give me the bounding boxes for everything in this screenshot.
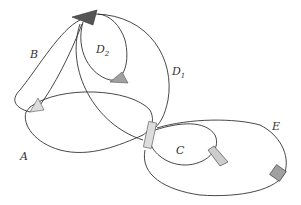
d2-arrow-marker <box>110 72 128 83</box>
label-D2-sub: 2 <box>104 50 110 58</box>
label-D2: D2 <box>95 43 110 58</box>
label-D2-main: D <box>95 43 105 56</box>
label-B: B <box>29 48 38 61</box>
label-C: C <box>176 144 185 157</box>
c-arrow-marker <box>208 146 228 166</box>
curve-A <box>25 92 152 153</box>
center-rect-marker <box>143 121 156 148</box>
loop-diagram: A B C D1 D2 E <box>0 0 301 205</box>
label-D1: D1 <box>171 65 185 80</box>
label-D1-main: D <box>171 65 181 78</box>
e-square-marker <box>270 165 287 182</box>
label-D1-sub: 1 <box>181 72 185 80</box>
curve-D1 <box>95 14 169 130</box>
label-E: E <box>271 120 280 133</box>
label-A: A <box>19 150 28 163</box>
